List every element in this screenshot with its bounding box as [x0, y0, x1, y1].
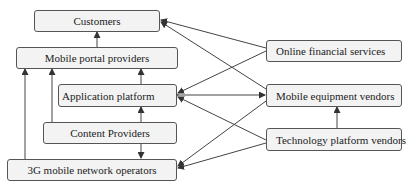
arrow-financial-to-customers: [161, 20, 266, 48]
arrow-financial-to-app: [178, 51, 266, 93]
node-content-providers: Content Providers: [43, 122, 177, 144]
node-customers: Customers: [34, 10, 160, 32]
node-mobile-equipment-vendors: Mobile equipment vendors: [266, 84, 402, 107]
node-technology-platform-vendors: Technology platform vendors: [266, 128, 402, 151]
node-3g-network-operators: 3G mobile network operators: [7, 159, 177, 181]
node-online-financial-services: Online financial services: [266, 40, 402, 62]
node-mobile-portal-providers: Mobile portal providers: [16, 47, 178, 69]
node-application-platform: Application platform: [58, 84, 177, 107]
arrow-tech-to-3g: [178, 143, 266, 168]
